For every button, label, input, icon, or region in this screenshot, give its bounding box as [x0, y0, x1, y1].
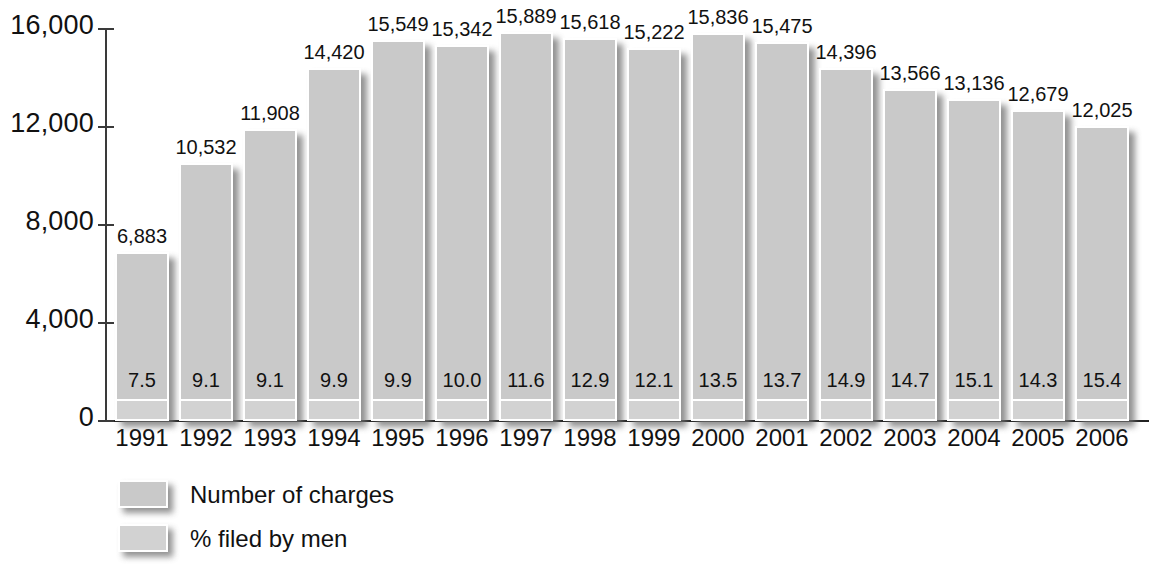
bar-percent-label: 11.6	[499, 369, 553, 392]
bar-number-of-charges	[435, 45, 489, 421]
bar-percent-filed-by-men	[179, 399, 233, 421]
bar-value-label: 14,420	[295, 41, 373, 64]
bar-percent-label: 9.1	[243, 369, 297, 392]
bar-percent-filed-by-men	[1075, 399, 1129, 421]
bar-percent-label: 10.0	[435, 369, 489, 392]
bar-percent-filed-by-men	[243, 399, 297, 421]
legend-swatch-men	[118, 524, 168, 552]
bar-percent-label: 13.7	[755, 369, 809, 392]
bar-percent-label: 7.5	[115, 369, 169, 392]
legend-swatch-wrap	[118, 524, 172, 554]
legend-label: % filed by men	[190, 524, 347, 554]
bar-percent-label: 14.7	[883, 369, 937, 392]
bar-percent-label: 15.4	[1075, 369, 1129, 392]
bar-percent-filed-by-men	[371, 399, 425, 421]
x-axis-label: 2001	[747, 424, 817, 452]
bar-percent-filed-by-men	[307, 399, 361, 421]
bar-value-label: 15,475	[743, 15, 821, 38]
legend-label: Number of charges	[190, 480, 394, 510]
bar-number-of-charges	[627, 48, 681, 421]
plot-area: 6,8837.5199110,5329.1199211,9089.1199314…	[0, 0, 1154, 568]
x-axis-label: 1998	[555, 424, 625, 452]
bar-value-label: 12,025	[1063, 99, 1141, 122]
bar-percent-filed-by-men	[1011, 399, 1065, 421]
bar-percent-filed-by-men	[947, 399, 1001, 421]
bar-number-of-charges	[371, 40, 425, 421]
bar-percent-label: 9.1	[179, 369, 233, 392]
x-axis-label: 2006	[1067, 424, 1137, 452]
bar-percent-label: 12.9	[563, 369, 617, 392]
bar-percent-filed-by-men	[499, 399, 553, 421]
bar-number-of-charges	[755, 42, 809, 421]
bar-percent-filed-by-men	[883, 399, 937, 421]
bar-number-of-charges	[307, 68, 361, 421]
bar-percent-label: 13.5	[691, 369, 745, 392]
bar-percent-label: 12.1	[627, 369, 681, 392]
bar-percent-label: 9.9	[371, 369, 425, 392]
bar-percent-filed-by-men	[691, 399, 745, 421]
legend-swatch-charges	[118, 480, 168, 508]
x-axis-label: 1999	[619, 424, 689, 452]
bar-percent-filed-by-men	[435, 399, 489, 421]
x-axis-label: 1994	[299, 424, 369, 452]
x-axis-label: 2002	[811, 424, 881, 452]
bar-percent-filed-by-men	[819, 399, 873, 421]
bar-number-of-charges	[115, 252, 169, 421]
x-axis-label: 1993	[235, 424, 305, 452]
x-axis-label: 1996	[427, 424, 497, 452]
x-axis-label: 2004	[939, 424, 1009, 452]
bar-percent-filed-by-men	[755, 399, 809, 421]
bar-number-of-charges	[499, 32, 553, 421]
x-axis-label: 2005	[1003, 424, 1073, 452]
bar-percent-filed-by-men	[115, 399, 169, 421]
bar-percent-label: 15.1	[947, 369, 1001, 392]
bar-percent-label: 14.3	[1011, 369, 1065, 392]
x-axis-label: 2003	[875, 424, 945, 452]
bar-percent-filed-by-men	[563, 399, 617, 421]
x-axis-label: 1995	[363, 424, 433, 452]
x-axis-label: 1991	[107, 424, 177, 452]
x-axis-label: 1997	[491, 424, 561, 452]
bar-number-of-charges	[691, 33, 745, 421]
bar-percent-label: 14.9	[819, 369, 873, 392]
bar-number-of-charges	[563, 38, 617, 421]
x-axis-label: 1992	[171, 424, 241, 452]
x-axis-label: 2000	[683, 424, 753, 452]
bar-value-label: 11,908	[231, 102, 309, 125]
bar-percent-filed-by-men	[627, 399, 681, 421]
bar-value-label: 10,532	[167, 136, 245, 159]
bar-chart: 04,0008,00012,00016,000 6,8837.5199110,5…	[0, 0, 1154, 568]
legend-swatch-wrap	[118, 480, 172, 510]
bar-percent-label: 9.9	[307, 369, 361, 392]
bar-value-label: 6,883	[103, 225, 181, 248]
